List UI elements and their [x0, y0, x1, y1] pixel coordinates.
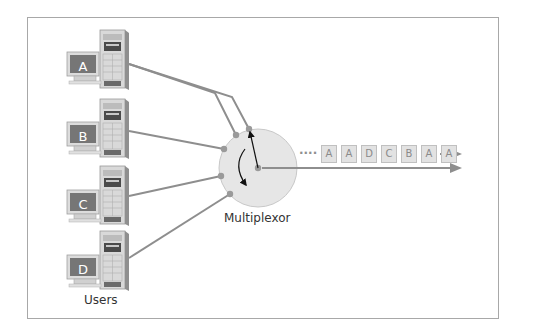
- line-user-d: [129, 194, 230, 258]
- packet: D: [361, 145, 377, 163]
- stream-ellipsis: ....: [299, 143, 317, 157]
- user-d-label: D: [70, 262, 96, 277]
- users-label: Users: [84, 293, 118, 307]
- line-user-a-2: [129, 64, 249, 129]
- packet: B: [401, 145, 417, 163]
- packet: A: [321, 145, 337, 163]
- multiplexor-diagram: [0, 0, 537, 336]
- packet: C: [381, 145, 397, 163]
- user-d: [67, 231, 129, 291]
- user-a-label: A: [70, 59, 96, 74]
- user-b-label: B: [70, 129, 96, 144]
- packet: A: [441, 145, 457, 163]
- line-user-a-1: [129, 64, 236, 135]
- user-c-label: C: [70, 197, 96, 212]
- multiplexor-label: Multiplexor: [224, 211, 290, 225]
- multiplexor: [218, 126, 297, 207]
- packet-stream: A A D C B A A: [321, 145, 457, 163]
- packet: A: [341, 145, 357, 163]
- line-user-b: [129, 131, 224, 149]
- packet: A: [421, 145, 437, 163]
- user-c: [67, 166, 129, 226]
- line-user-c: [129, 176, 221, 196]
